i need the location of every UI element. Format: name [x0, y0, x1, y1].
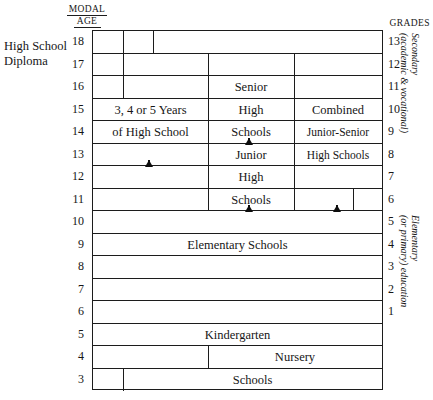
marker-stem — [248, 138, 250, 145]
side-label-elementary-main: Elementary — [410, 215, 421, 261]
marker-stem — [248, 205, 250, 212]
table-row — [93, 301, 382, 324]
cell-middle-high: High — [208, 99, 294, 122]
grade-label: 6 — [388, 188, 406, 211]
modal-age-line1: MODAL — [67, 4, 107, 16]
cell-nursery: Nursery — [208, 346, 382, 369]
side-label-elementary-sub: (or primary) education — [399, 215, 410, 307]
cell-middle-high-2: High — [208, 166, 294, 189]
table-row — [93, 279, 382, 302]
side-label-secondary-sub: (academic & vocational) — [399, 33, 410, 133]
modal-age-line2: AGE — [74, 16, 101, 28]
table-row — [93, 54, 382, 77]
cell-schools-bottom: Schools — [123, 369, 382, 392]
vrule-left-inner — [123, 31, 124, 99]
cell-elementary-schools: Elementary Schools — [93, 234, 382, 257]
modal-age-header: MODAL AGE — [57, 4, 117, 28]
grades-header: GRADES — [390, 18, 430, 28]
side-label-elementary-sub-wrap: (or primary) education — [399, 215, 410, 307]
age-label: 3 — [62, 368, 84, 391]
age-label: 13 — [62, 143, 84, 166]
age-label: 14 — [62, 120, 84, 143]
age-label: 17 — [62, 53, 84, 76]
cell-kindergarten: Kindergarten — [93, 324, 382, 347]
cell-right-junior-senior: Junior-Senior — [294, 121, 382, 144]
grid-table: 3, 4 or 5 Years of High School Senior Hi… — [92, 30, 383, 390]
cell-middle-senior: Senior — [208, 76, 294, 99]
education-structure-chart: MODAL AGE GRADES High School Diploma 18 … — [0, 0, 433, 400]
grade-label: 8 — [388, 143, 406, 166]
age-label: 6 — [62, 300, 84, 323]
age-label: 18 — [62, 30, 84, 53]
cell-middle-junior: Junior — [208, 144, 294, 167]
age-label: 11 — [62, 188, 84, 211]
marker-stem — [336, 205, 338, 212]
age-label: 10 — [62, 210, 84, 233]
table-row — [93, 256, 382, 279]
side-label-elementary: Elementary — [410, 215, 421, 261]
table-row — [93, 211, 382, 234]
age-label: 8 — [62, 255, 84, 278]
grade-label: 7 — [388, 165, 406, 188]
age-label: 12 — [62, 165, 84, 188]
age-label: 4 — [62, 345, 84, 368]
cell-left-high-school: of High School — [93, 121, 208, 144]
cell-right-combined: Combined — [294, 99, 382, 122]
age-label: 9 — [62, 233, 84, 256]
age-label: 16 — [62, 75, 84, 98]
cell-left-years: 3, 4 or 5 Years — [93, 99, 208, 122]
cell-right-high-schools: High Schools — [294, 144, 382, 167]
age-label: 7 — [62, 278, 84, 301]
side-label-secondary-main: Secondary — [410, 33, 421, 75]
age-label: 5 — [62, 323, 84, 346]
marker-stem — [148, 160, 150, 167]
age-label: 15 — [62, 98, 84, 121]
side-label-secondary-sub-wrap: (academic & vocational) — [399, 33, 410, 133]
vrule-grade7-split — [353, 189, 354, 212]
side-label-secondary: Secondary — [410, 33, 421, 75]
vrule-left-outer — [153, 31, 154, 54]
table-row — [93, 31, 382, 54]
